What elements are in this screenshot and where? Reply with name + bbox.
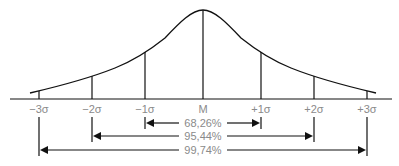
interval-label: 95,44% xyxy=(184,130,222,142)
normal-distribution-diagram: −3σ −2σ −1σ M +1σ +2σ +3σ 68,26% 95,44% … xyxy=(0,0,399,166)
interval-arrow-95: 95,44% xyxy=(93,130,313,142)
interval-label: 99,74% xyxy=(184,144,222,156)
tick-label: −3σ xyxy=(29,103,49,115)
interval-arrow-68: 68,26% xyxy=(146,117,260,129)
tick-label: +1σ xyxy=(251,103,271,115)
tick-label: +2σ xyxy=(304,103,324,115)
tick-label: M xyxy=(198,103,207,115)
tick-label: +3σ xyxy=(357,103,377,115)
tick-label: −2σ xyxy=(82,103,102,115)
interval-arrow-99: 99,74% xyxy=(40,144,366,156)
tick-label: −1σ xyxy=(135,103,155,115)
interval-label: 68,26% xyxy=(184,117,222,129)
